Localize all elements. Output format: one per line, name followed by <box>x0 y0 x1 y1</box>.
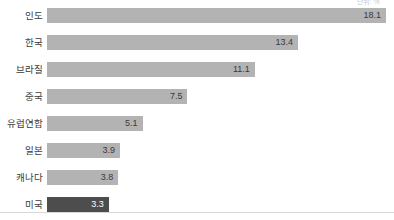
bar[interactable]: 5.1 <box>47 116 143 131</box>
bar-value-label: 7.5 <box>170 89 183 104</box>
bar-row: 브라질11.1 <box>0 62 394 77</box>
bar-value-label: 3.9 <box>103 143 116 158</box>
bar-row: 미국3.3 <box>0 197 394 212</box>
bar-track: 13.4 <box>47 35 386 50</box>
unit-annotation: 단위: % <box>357 0 380 6</box>
bar-row: 캐나다3.8 <box>0 170 394 185</box>
bar-value-label: 18.1 <box>363 8 381 23</box>
bar-row: 한국13.4 <box>0 35 394 50</box>
bar-rows: 인도18.1한국13.4브라질11.1중국7.5유럽연합5.1일본3.9캐나다3… <box>0 8 394 220</box>
axis-baseline <box>0 212 394 213</box>
bar-track: 3.9 <box>47 143 386 158</box>
category-label: 중국 <box>0 89 43 104</box>
category-label: 캐나다 <box>0 170 43 185</box>
category-label: 미국 <box>0 197 43 212</box>
bar-row: 중국7.5 <box>0 89 394 104</box>
bar[interactable]: 18.1 <box>47 8 386 23</box>
category-label: 한국 <box>0 35 43 50</box>
bar-value-label: 5.1 <box>125 116 138 131</box>
bar-track: 18.1 <box>47 8 386 23</box>
bar-value-label: 3.3 <box>91 197 104 212</box>
bar-value-label: 13.4 <box>275 35 293 50</box>
bar[interactable]: 11.1 <box>47 62 255 77</box>
category-label: 일본 <box>0 143 43 158</box>
bar[interactable]: 3.8 <box>47 170 118 185</box>
bar-track: 7.5 <box>47 89 386 104</box>
bar-row: 유럽연합5.1 <box>0 116 394 131</box>
bar[interactable]: 3.9 <box>47 143 120 158</box>
bar[interactable]: 13.4 <box>47 35 298 50</box>
bar-track: 11.1 <box>47 62 386 77</box>
bar-track: 3.8 <box>47 170 386 185</box>
category-label: 유럽연합 <box>0 116 43 131</box>
bar-value-label: 11.1 <box>233 62 250 77</box>
category-label: 브라질 <box>0 62 43 77</box>
bar-value-label: 3.8 <box>101 170 114 185</box>
bar-highlighted[interactable]: 3.3 <box>47 197 109 212</box>
bar-chart: 단위: % 인도18.1한국13.4브라질11.1중국7.5유럽연합5.1일본3… <box>0 0 394 220</box>
category-label: 인도 <box>0 8 43 23</box>
bar-row: 일본3.9 <box>0 143 394 158</box>
bar[interactable]: 7.5 <box>47 89 187 104</box>
bar-track: 3.3 <box>47 197 386 212</box>
bar-row: 인도18.1 <box>0 8 394 23</box>
bar-track: 5.1 <box>47 116 386 131</box>
